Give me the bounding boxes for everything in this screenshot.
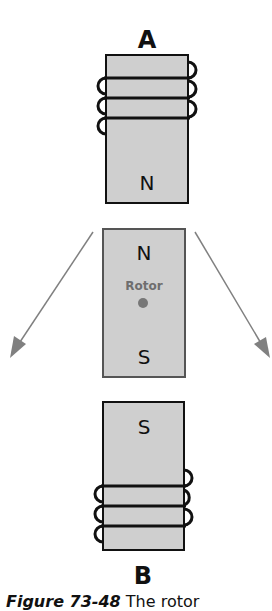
right-arrow-icon bbox=[195, 232, 270, 358]
left-arrow-icon bbox=[10, 232, 93, 358]
rotor-axis-dot bbox=[138, 298, 148, 308]
rotor-label: Rotor bbox=[125, 279, 162, 293]
stator-a-label: A bbox=[138, 26, 157, 54]
stator-b-label: B bbox=[134, 562, 152, 590]
rotor-pole-n: N bbox=[137, 241, 152, 265]
rotor: N Rotor S bbox=[103, 229, 185, 377]
stator-b: S B bbox=[95, 402, 192, 590]
rotor-pole-s: S bbox=[138, 345, 151, 369]
figure-number: Figure 73-48 bbox=[6, 592, 121, 611]
stator-a: A N bbox=[98, 26, 196, 203]
caption-text: The rotor bbox=[126, 592, 200, 611]
figure-caption: Figure 73-48 The rotor bbox=[6, 592, 199, 611]
stator-b-pole: S bbox=[138, 415, 151, 439]
stator-a-pole: N bbox=[140, 171, 155, 195]
